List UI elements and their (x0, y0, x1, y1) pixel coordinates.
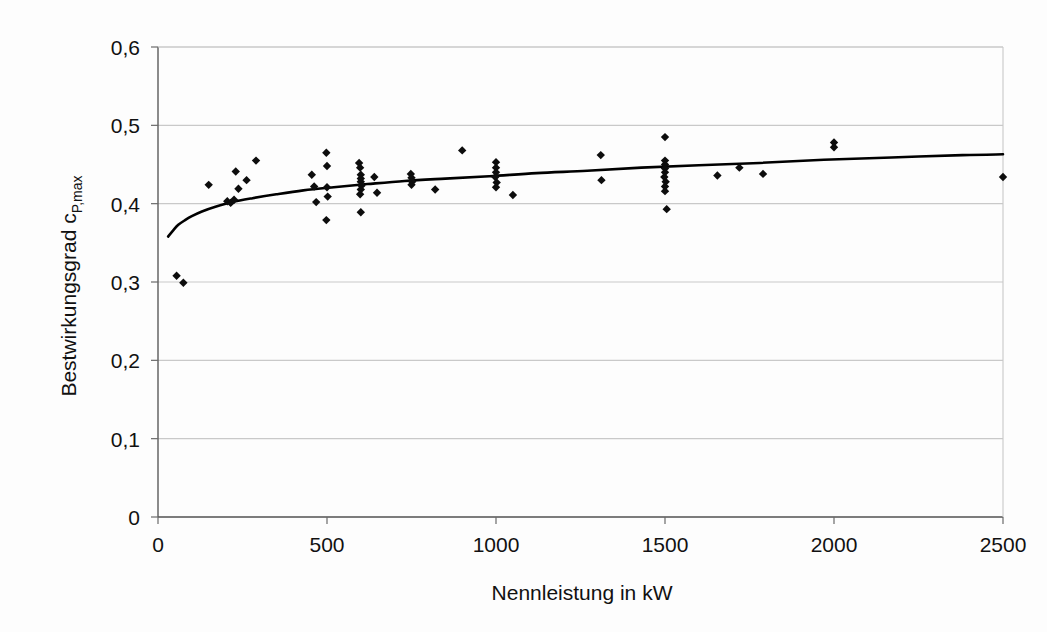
y-tick-label: 0,6 (111, 36, 140, 59)
data-point-marker (431, 185, 439, 193)
trend-curve-path (168, 154, 1003, 236)
data-point-marker (662, 205, 670, 213)
data-point-marker (661, 133, 669, 141)
y-axis-title-main: Bestwirkungsgrad c (57, 213, 80, 396)
x-tick-labels-group: 05001000150020002500 (152, 533, 1026, 556)
y-tick-label: 0,2 (111, 349, 140, 372)
trend-curve-group (168, 154, 1003, 236)
data-point-marker (172, 272, 180, 280)
data-point-marker (370, 173, 378, 181)
data-point-marker (234, 185, 242, 193)
data-point-marker (713, 171, 721, 179)
scatter-plot-canvas: 00,10,20,30,40,50,6 05001000150020002500… (0, 0, 1047, 632)
gridlines-group (158, 47, 1003, 517)
data-point-marker (323, 192, 331, 200)
data-point-marker (458, 146, 466, 154)
data-point-marker (242, 176, 250, 184)
data-point-marker (252, 156, 260, 164)
x-axis-title: Nennleistung in kW (492, 581, 673, 604)
data-point-marker (232, 167, 240, 175)
y-tick-labels-group: 00,10,20,30,40,50,6 (111, 36, 141, 529)
data-point-marker (509, 191, 517, 199)
data-point-marker (312, 198, 320, 206)
x-tick-label: 0 (152, 533, 164, 556)
data-point-marker (759, 170, 767, 178)
chart-figure: 00,10,20,30,40,50,6 05001000150020002500… (0, 0, 1047, 632)
data-point-marker (323, 183, 331, 191)
x-tick-label: 500 (309, 533, 344, 556)
data-point-marker (322, 216, 330, 224)
y-tick-label: 0,3 (111, 271, 140, 294)
data-point-marker (597, 151, 605, 159)
data-point-marker (308, 170, 316, 178)
y-tick-label: 0,5 (111, 114, 140, 137)
x-tick-label: 1000 (473, 533, 520, 556)
data-points-group (172, 133, 1007, 287)
y-axis-title-subscript: P,max (69, 175, 85, 213)
data-point-marker (830, 143, 838, 151)
data-point-marker (323, 162, 331, 170)
y-tick-label: 0 (128, 506, 140, 529)
y-tick-label: 0,1 (111, 428, 140, 451)
tick-marks-group (151, 47, 1003, 524)
y-tick-label: 0,4 (111, 193, 141, 216)
x-tick-label: 2000 (811, 533, 858, 556)
x-tick-label: 2500 (980, 533, 1027, 556)
x-tick-label: 1500 (642, 533, 689, 556)
data-point-marker (661, 187, 669, 195)
data-point-marker (999, 173, 1007, 181)
data-point-marker (179, 279, 187, 287)
data-point-marker (357, 208, 365, 216)
data-point-marker (373, 189, 381, 197)
y-axis-title: Bestwirkungsgrad cP,max (57, 175, 85, 396)
data-point-marker (597, 176, 605, 184)
data-point-marker (322, 149, 330, 157)
data-point-marker (205, 181, 213, 189)
